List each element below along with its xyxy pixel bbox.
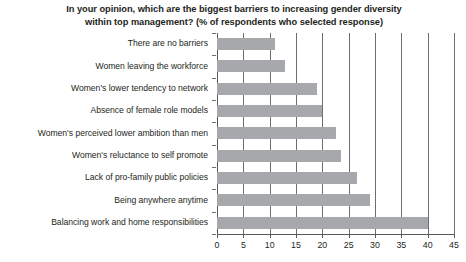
value-tick-5 xyxy=(243,234,244,238)
bar-row xyxy=(217,167,454,189)
bar-row xyxy=(217,145,454,167)
bars-series xyxy=(217,33,454,234)
chart-title: In your opinion, which are the biggest b… xyxy=(38,3,430,29)
category-tick xyxy=(212,78,216,79)
bar xyxy=(217,83,317,95)
category-tick xyxy=(212,55,216,56)
value-tick-30 xyxy=(375,234,376,238)
category-tick xyxy=(212,122,216,123)
bar xyxy=(217,127,336,139)
bar-row xyxy=(217,122,454,144)
category-label: Women leaving the workforce xyxy=(0,61,213,72)
category-tick xyxy=(212,145,216,146)
category-label: Absence of female role models xyxy=(0,105,213,116)
bar-row xyxy=(217,189,454,211)
bar xyxy=(217,217,428,229)
category-tick xyxy=(212,33,216,34)
bar xyxy=(217,38,275,50)
bar-row xyxy=(217,212,454,234)
category-tick xyxy=(212,100,216,101)
category-label: Women's perceived lower ambition than me… xyxy=(0,128,213,139)
value-axis-line xyxy=(217,234,455,235)
bar-row xyxy=(217,100,454,122)
category-tick xyxy=(212,189,216,190)
category-tick xyxy=(212,212,216,213)
category-tick xyxy=(212,167,216,168)
value-tick-45 xyxy=(454,234,455,238)
value-tick-35 xyxy=(401,234,402,238)
category-label: Being anywhere anytime xyxy=(0,195,213,206)
chart-title-line-1: In your opinion, which are the biggest b… xyxy=(38,3,430,16)
bar xyxy=(217,105,322,117)
value-tick-20 xyxy=(322,234,323,238)
value-tick-0 xyxy=(217,234,218,238)
bar-row xyxy=(217,78,454,100)
category-axis: There are no barriersWomen leaving the w… xyxy=(0,33,213,234)
category-label: Women's reluctance to self promote xyxy=(0,150,213,161)
value-tick-25 xyxy=(349,234,350,238)
bar xyxy=(217,172,357,184)
category-label: There are no barriers xyxy=(0,38,213,49)
bar xyxy=(217,150,341,162)
plot-area xyxy=(217,33,454,234)
bar xyxy=(217,194,370,206)
category-label: Women's lower tendency to network xyxy=(0,83,213,94)
chart-title-line-2: within top management? (% of respondents… xyxy=(38,16,430,29)
value-tick-40 xyxy=(428,234,429,238)
value-tick-label: 45 xyxy=(439,240,466,251)
bar-row xyxy=(217,33,454,55)
value-tick-10 xyxy=(270,234,271,238)
bar xyxy=(217,60,285,72)
bar-row xyxy=(217,55,454,77)
category-label: Lack of pro-family public policies xyxy=(0,172,213,183)
gridline-45 xyxy=(454,33,455,234)
bar-chart-figure: In your opinion, which are the biggest b… xyxy=(0,0,466,262)
category-tick xyxy=(212,234,216,235)
value-tick-15 xyxy=(296,234,297,238)
category-label: Balancing work and home responsibilities xyxy=(0,217,213,228)
